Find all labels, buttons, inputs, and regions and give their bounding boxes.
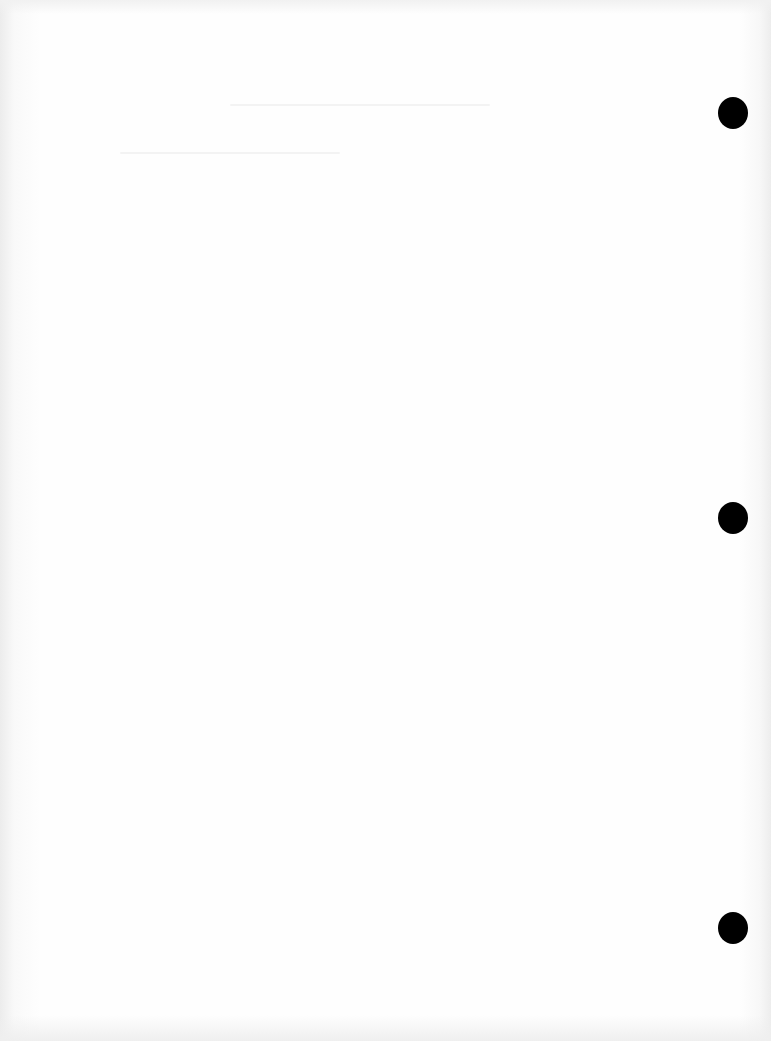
bleed-through-line bbox=[120, 152, 340, 154]
punch-hole bbox=[718, 912, 748, 944]
punch-hole bbox=[718, 502, 748, 534]
punch-hole bbox=[718, 97, 748, 129]
blank-page bbox=[0, 0, 771, 1041]
scan-edge-bottom bbox=[0, 1015, 771, 1041]
bleed-through-line bbox=[230, 104, 490, 106]
scan-edge-top bbox=[0, 0, 771, 14]
